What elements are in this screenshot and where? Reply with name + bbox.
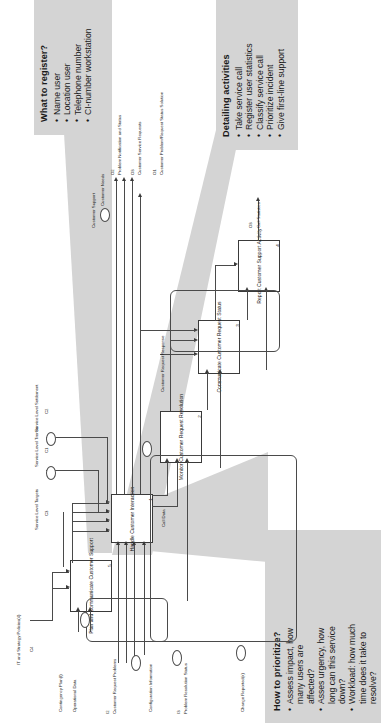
connector [160, 354, 196, 355]
arrow-icon [142, 541, 146, 545]
arrow-icon [66, 585, 70, 589]
callout-title-what-to-register: What to register? [39, 0, 49, 122]
callout-item: Classify service call [255, 0, 265, 137]
control-code-c2: C2 [44, 409, 49, 415]
arrow-icon [124, 541, 128, 545]
connector [140, 196, 141, 494]
connector [72, 503, 73, 563]
connector [30, 620, 53, 621]
control-label-it-strategy-policies: IT and Strategy Policies(4) [16, 614, 21, 665]
input-label-customer-request-problems: Customer Request Problems [112, 659, 117, 714]
connector [78, 610, 79, 632]
input-label-problem-resolution-status: Problem Resolution Status [183, 663, 188, 714]
callout-item: Take service call [234, 0, 244, 137]
callout-item: Register user statistics [244, 0, 254, 137]
output-label-customer-service-requests: Customer Service Requests [137, 122, 142, 176]
output-label-customer-problem-request-status: Customer Problem/Request Status Solution [159, 92, 164, 175]
output-label-problem-notification-status: Problem Notification and Status [117, 115, 122, 175]
callout-item: Prioritize incident [265, 0, 275, 137]
feedback-loop-outer [150, 455, 297, 642]
junction-node [46, 432, 56, 446]
feedback-loop-upper [170, 290, 280, 352]
arrow-icon [132, 541, 136, 545]
arrow-icon [138, 193, 142, 197]
callout-list-how-to-prioritize: Assess impact, how many users are affect… [285, 611, 379, 711]
arrow-icon [106, 518, 110, 522]
callout-item: Give first-line support [276, 0, 286, 137]
connector [116, 180, 117, 494]
output-code-o3-requests: O3 [130, 169, 135, 175]
junction-node [80, 612, 90, 628]
output-label-customer-needs: Customer Needs [100, 174, 105, 206]
connector [215, 265, 236, 266]
connector [63, 512, 64, 567]
connector [124, 180, 125, 494]
connector [72, 503, 109, 504]
connector [132, 180, 133, 494]
callout-item: Asses urgency, how long can this service… [316, 611, 347, 711]
junction-node [46, 466, 56, 480]
callout-item: Telephone number [73, 0, 83, 122]
process-number-5: 5 [106, 564, 111, 566]
process-number-2: 2 [196, 415, 201, 417]
input-label-configuration-information: Configuration Information [148, 664, 153, 712]
control-code-c3: C3 [44, 511, 49, 517]
output-code-o2: O2 [110, 169, 115, 175]
junction-node [131, 655, 141, 671]
callout-item: CI-number workstation [83, 0, 93, 122]
callout-title-detailing-activities: Detailing activities [221, 0, 231, 137]
junction-node [236, 645, 246, 661]
callout-item: Name user [52, 0, 62, 122]
arrow-icon [66, 569, 70, 573]
process-box-4[interactable]: Report Customer Support Activity 4 [238, 240, 280, 292]
arrow-icon [130, 177, 134, 181]
junction-node [142, 441, 152, 457]
input-code-i3: I3 [176, 710, 181, 714]
arrow-icon [218, 369, 222, 373]
control-label-service-level-targets: Service Level Targets [34, 489, 39, 530]
annotation-customer-support: Customer Support [91, 193, 96, 228]
input-label-contingency-plan: Contingency Plan(I) [58, 674, 63, 712]
arrow-icon [122, 177, 126, 181]
annotation-call-data: Call Data [161, 509, 166, 527]
control-label-service-level-trends: Service Level Trends [34, 427, 39, 467]
callout-item: Workload: how much time does it take to … [347, 611, 378, 711]
control-label-service-level-settlement: Service Level Settlement [34, 384, 39, 432]
control-code-c4: C4 [29, 647, 34, 653]
connector [72, 531, 109, 532]
arrow-icon [256, 197, 260, 201]
connector [98, 470, 99, 512]
connector [207, 372, 208, 410]
connector [72, 521, 109, 522]
process-number-4: 4 [274, 244, 279, 246]
callout-detailing-activities: Detailing activities Take service call R… [216, 0, 298, 150]
input-label-change-reported: Change Reported(x) [240, 673, 245, 712]
input-code-i2: I2 [105, 710, 110, 714]
arrow-icon [106, 509, 110, 513]
junction-node [100, 208, 110, 222]
connector [72, 512, 109, 513]
connector [52, 572, 53, 620]
feedback-loop-inner [86, 598, 168, 642]
callout-item: Location user [62, 0, 72, 122]
callout-list-what-to-register: Name user Location user Telephone number… [52, 0, 94, 122]
output-code-o3-call-statistics: O3 [248, 222, 253, 228]
arrow-icon [205, 369, 209, 373]
connector [107, 437, 108, 503]
process-box-1[interactable]: Handle Customer Interaction 1 [111, 494, 153, 543]
connector [220, 372, 221, 468]
output-label-call-statistics: Call Statistics [256, 202, 261, 228]
arrow-icon [76, 607, 80, 611]
callout-list-detailing-activities: Take service call Register user statisti… [234, 0, 286, 137]
arrow-icon [114, 177, 118, 181]
diagram-canvas: What to register? Name user Location use… [0, 0, 381, 723]
arrow-icon [106, 528, 110, 532]
annotation-customer-request-response: Customer Request Response [160, 336, 165, 392]
output-code-o1: O1 [152, 169, 157, 175]
callout-what-to-register: What to register? Name user Location use… [34, 0, 112, 135]
arrow-icon [234, 262, 238, 266]
junction-node [172, 650, 182, 666]
input-label-operational-data: Operational Data [72, 680, 77, 713]
control-code-c1: C1 [44, 448, 49, 454]
arrow-icon [116, 541, 120, 545]
